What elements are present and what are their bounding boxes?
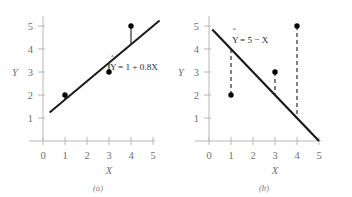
x-tick-label-1: 1: [228, 150, 233, 161]
y-tick-label-1: 1: [194, 113, 199, 124]
equation-y-symbol: Y: [232, 35, 239, 45]
data-point: [128, 23, 133, 28]
panel-b-plot: 1 2 3 4 5 Y 0 1 2 3 4 5 X: [176, 0, 352, 197]
data-point: [228, 92, 233, 97]
x-tick-label-2: 2: [250, 150, 255, 161]
x-tick-label-3: 3: [106, 150, 111, 161]
y-tick-label-4: 4: [194, 44, 200, 55]
equation-y-symbol: Y: [110, 62, 117, 72]
panel-b: 1 2 3 4 5 Y 0 1 2 3 4 5 X: [176, 0, 352, 197]
y-tick-label-2: 2: [28, 90, 33, 101]
x-tick-label-5: 5: [316, 150, 321, 161]
equation-label: = 1 + 0.8X: [118, 62, 158, 72]
x-tick-label-0: 0: [206, 150, 211, 161]
x-tick-label-2: 2: [84, 150, 89, 161]
x-axis-title: X: [271, 165, 279, 176]
x-tick-label-1: 1: [62, 150, 67, 161]
data-point: [272, 69, 277, 74]
equation-hat: ̂: [111, 55, 115, 57]
x-tick-label-0: 0: [40, 150, 45, 161]
y-tick-label-3: 3: [28, 67, 33, 78]
panel-caption: (b): [259, 183, 269, 193]
equation-hat: ̂: [233, 28, 237, 30]
panel-a: 1 2 3 4 5 Y 0 1 2 3 4 5 X: [0, 0, 176, 197]
y-tick-label-2: 2: [194, 90, 199, 101]
regression-figure: 1 2 3 4 5 Y 0 1 2 3 4 5 X: [0, 0, 352, 197]
y-tick-label-4: 4: [28, 44, 34, 55]
panel-a-plot: 1 2 3 4 5 Y 0 1 2 3 4 5 X: [0, 0, 176, 197]
data-point: [62, 92, 67, 97]
y-tick-label-3: 3: [194, 67, 199, 78]
x-axis-title: X: [105, 165, 113, 176]
regression-line: [212, 30, 319, 142]
y-axis-title: Y: [178, 67, 185, 78]
y-tick-label-1: 1: [28, 113, 33, 124]
y-tick-label-5: 5: [28, 21, 33, 32]
data-point: [294, 23, 299, 28]
x-tick-label-4: 4: [128, 150, 134, 161]
x-tick-label-3: 3: [272, 150, 277, 161]
x-tick-label-4: 4: [294, 150, 300, 161]
y-axis-title: Y: [12, 67, 19, 78]
panel-caption: (a): [93, 183, 103, 193]
x-tick-label-5: 5: [150, 150, 155, 161]
y-tick-label-5: 5: [194, 21, 199, 32]
equation-label: = 5 − X: [240, 35, 269, 45]
